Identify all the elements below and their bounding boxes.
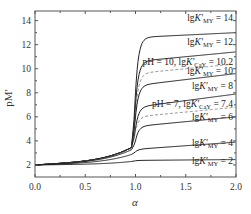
x-tick-label: 1.5 bbox=[180, 182, 192, 192]
x-tick-label: 0.0 bbox=[29, 182, 41, 192]
x-tick-label: 2.0 bbox=[230, 182, 242, 192]
y-tick-label: 6 bbox=[26, 112, 31, 122]
curve-label: lgK'MY = 4 bbox=[192, 138, 233, 149]
x-tick-label: 1.0 bbox=[130, 182, 142, 192]
y-tick-label: 14 bbox=[22, 16, 32, 26]
curve-label: lgK'MY = 12 bbox=[187, 37, 233, 48]
y-tick-label: 4 bbox=[26, 136, 31, 146]
curve-label: lgK'MY = 10 bbox=[187, 66, 233, 77]
curve-label: lgK'MY = 8 bbox=[192, 81, 233, 92]
x-tick-label: 0.5 bbox=[79, 182, 91, 192]
y-tick-label: 12 bbox=[22, 40, 32, 50]
y-tick-label: 8 bbox=[26, 88, 31, 98]
x-axis-label: α bbox=[132, 196, 138, 208]
curve-label: lgK'MY = 2 bbox=[192, 156, 233, 167]
y-tick-label: 10 bbox=[22, 64, 32, 74]
curve-label: pH = 7, lgK'CaY = 7.4 bbox=[152, 99, 233, 110]
y-axis-label: pM' bbox=[2, 89, 14, 106]
titration-curve-chart: 0.00.51.01.52.02468101214 lgK'MY = 14lgK… bbox=[0, 0, 251, 214]
y-tick-label: 2 bbox=[26, 160, 31, 170]
curve-label: lgK'MY = 14 bbox=[187, 13, 233, 24]
curve-label: lgK'MY = 6 bbox=[192, 112, 233, 123]
